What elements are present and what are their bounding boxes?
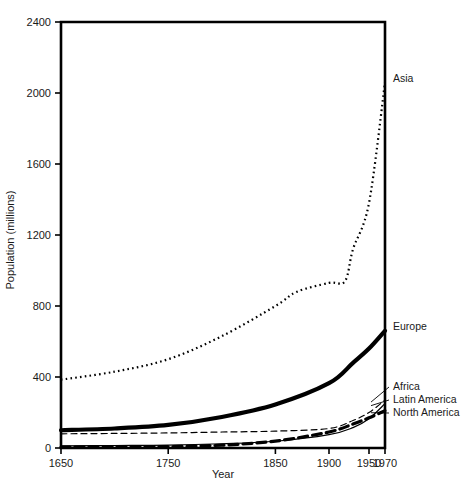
chart-canvas: 04008001200160020002400 1650175018501900…: [0, 0, 475, 494]
x-tick-label: 1750: [156, 457, 180, 469]
y-axis-title: Population (millions): [4, 190, 16, 289]
x-tick-label: 1900: [317, 457, 341, 469]
series-label-north-america: North America: [393, 406, 460, 418]
x-tick-label: 1970: [373, 457, 397, 469]
y-tick-label: 1200: [27, 229, 51, 241]
series-label-asia: Asia: [393, 72, 414, 84]
x-tick-label: 1850: [263, 457, 287, 469]
y-tick-label: 2000: [27, 87, 51, 99]
y-tick-label: 1600: [27, 158, 51, 170]
series-label-africa: Africa: [393, 380, 420, 392]
population-line-chart: 04008001200160020002400 1650175018501900…: [0, 0, 475, 494]
y-tick-label: 0: [45, 442, 51, 454]
series-label-latin-america: Latin America: [393, 393, 457, 405]
x-axis-title: Year: [212, 468, 235, 480]
y-tick-label: 400: [33, 371, 51, 383]
y-tick-label: 2400: [27, 16, 51, 28]
series-label-europe: Europe: [393, 320, 427, 332]
y-tick-label: 800: [33, 300, 51, 312]
x-tick-label: 1650: [49, 457, 73, 469]
